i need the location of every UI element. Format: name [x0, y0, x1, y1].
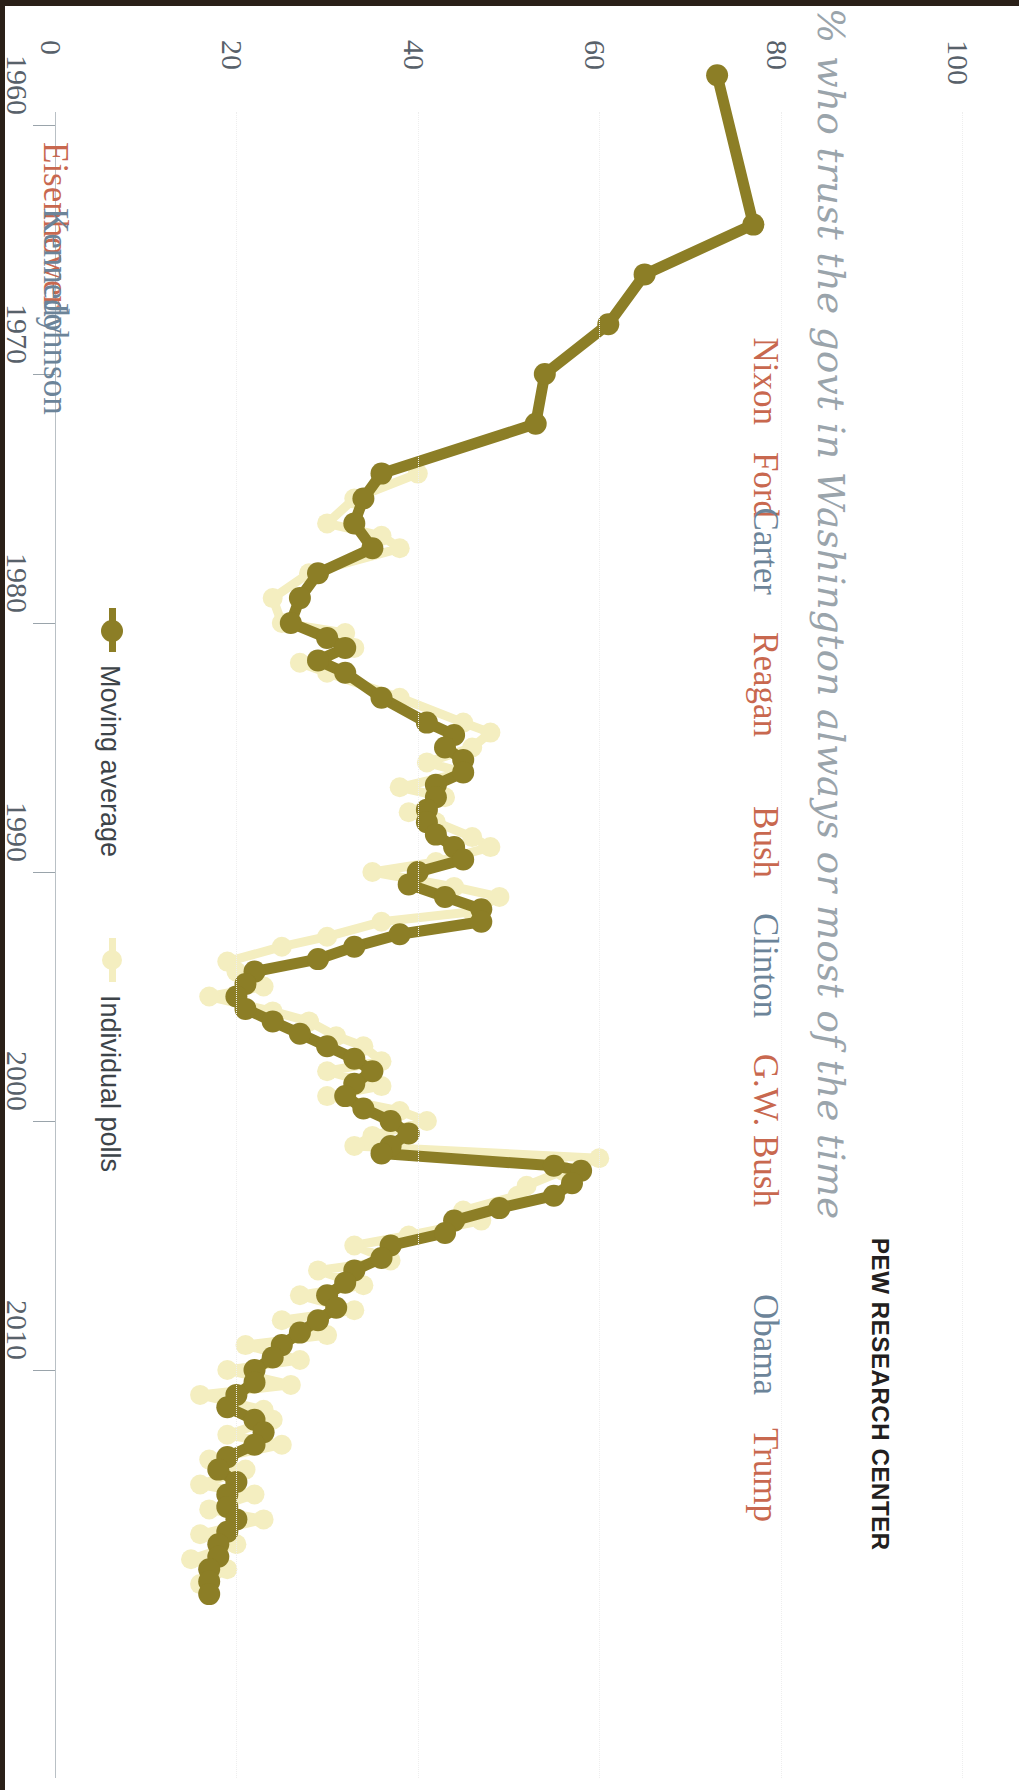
year-tick-1990: 1990: [0, 802, 34, 862]
data-point: [361, 537, 383, 559]
data-point: [480, 837, 500, 857]
data-point: [307, 1309, 329, 1331]
data-point: [352, 1098, 374, 1120]
chart-figure: 020406080100 196019701980199020002010 Ei…: [0, 0, 1019, 1790]
data-point: [561, 1172, 583, 1194]
data-point: [371, 463, 393, 485]
value-tick-20: 20: [215, 40, 249, 70]
year-tick-mark-1960: [33, 125, 55, 126]
value-tick-40: 40: [397, 40, 431, 70]
data-point: [488, 1197, 510, 1219]
data-point: [307, 649, 329, 671]
data-point: [198, 1583, 220, 1605]
data-point: [352, 488, 374, 510]
data-point: [289, 1023, 311, 1045]
gridline-40: [418, 112, 419, 1778]
year-tick-mark-1990: [33, 872, 55, 873]
gridline-60: [599, 112, 600, 1778]
data-point: [325, 1297, 347, 1319]
data-point: [244, 1434, 266, 1456]
data-point: [217, 1360, 237, 1380]
data-point: [343, 1048, 365, 1070]
value-tick-60: 60: [578, 40, 612, 70]
data-point: [434, 886, 456, 908]
data-point: [371, 1247, 393, 1269]
value-tick-100: 100: [941, 40, 975, 85]
year-tick-2010: 2010: [0, 1300, 34, 1360]
data-point: [236, 1335, 256, 1355]
year-tick-mark-2000: [33, 1121, 55, 1122]
data-point: [181, 1549, 201, 1569]
data-point: [425, 824, 447, 846]
data-point: [343, 512, 365, 534]
data-point: [307, 948, 329, 970]
data-point: [390, 777, 410, 797]
data-point: [307, 562, 329, 584]
data-point: [372, 912, 392, 932]
data-point: [334, 637, 356, 659]
data-point: [361, 1060, 383, 1082]
data-point: [344, 1236, 364, 1256]
data-point: [308, 1260, 328, 1280]
legend-label-moving-average: Moving average: [94, 665, 125, 857]
data-point: [706, 64, 728, 86]
data-point: [199, 1499, 219, 1519]
data-point: [317, 513, 337, 533]
data-point: [597, 313, 619, 335]
year-tick-1970: 1970: [0, 304, 34, 364]
data-point: [334, 662, 356, 684]
data-point: [534, 363, 556, 385]
year-tick-mark-1980: [33, 623, 55, 624]
data-point: [217, 1425, 237, 1445]
year-tick-mark-2010: [33, 1370, 55, 1371]
data-point: [262, 1010, 284, 1032]
data-point: [290, 1285, 310, 1305]
data-point: [207, 1459, 229, 1481]
data-point: [417, 1111, 437, 1131]
data-point: [289, 587, 311, 609]
source-footer: PEW RESEARCH CENTER: [866, 1238, 894, 1758]
data-point: [272, 1435, 292, 1455]
data-point: [290, 653, 310, 673]
legend-label-individual-polls: Individual polls: [94, 995, 125, 1172]
data-point: [190, 1524, 210, 1544]
data-point: [389, 923, 411, 945]
president-label-johnson: Johnson: [35, 300, 75, 415]
data-point: [371, 1142, 393, 1164]
data-point: [362, 862, 382, 882]
data-point: [434, 737, 456, 759]
data-point: [452, 849, 474, 871]
data-point: [480, 723, 500, 743]
data-point: [380, 1110, 402, 1132]
data-point: [317, 1086, 337, 1106]
chart-title: % who trust the govt in Washington alway…: [809, 8, 852, 1768]
data-point: [398, 873, 420, 895]
data-point: [190, 1385, 210, 1405]
data-point: [371, 687, 393, 709]
data-point: [272, 1310, 292, 1330]
data-point: [390, 538, 410, 558]
data-point: [434, 1222, 456, 1244]
data-point: [334, 1272, 356, 1294]
data-point: [316, 1035, 338, 1057]
president-label-trump: Trump: [745, 1262, 785, 1522]
data-point: [235, 998, 257, 1020]
data-point: [245, 1485, 265, 1505]
data-point: [344, 1300, 364, 1320]
year-tick-2000: 2000: [0, 1051, 34, 1111]
legend-marker-moving-average: [101, 620, 123, 642]
data-point: [543, 1155, 565, 1177]
data-point: [254, 1509, 274, 1529]
data-point: [317, 1061, 337, 1081]
value-tick-0: 0: [34, 40, 68, 55]
legend-marker-individual-polls: [102, 950, 122, 970]
data-point: [525, 413, 547, 435]
data-point: [416, 712, 438, 734]
data-point: [344, 1136, 364, 1156]
data-point: [489, 887, 509, 907]
year-tick-1960: 1960: [0, 55, 34, 115]
gridline-100: [962, 112, 963, 1778]
data-point: [398, 1122, 420, 1144]
data-point: [216, 1396, 238, 1418]
data-point: [280, 612, 302, 634]
